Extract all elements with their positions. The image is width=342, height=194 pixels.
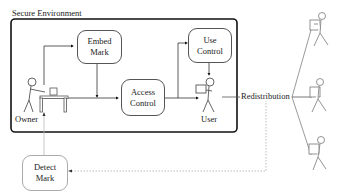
user-figure-icon	[196, 78, 214, 112]
secure-environment-title: Secure Environment	[12, 8, 82, 18]
recipient-figure-icon	[310, 13, 328, 47]
redistribution-label: Redistribution	[241, 91, 290, 101]
access-control-node: Access Control	[121, 79, 165, 116]
embed-mark-node: Embed Mark	[77, 30, 122, 64]
edge-to-recipient-3	[292, 97, 311, 155]
edge-user-to-usecontrol	[178, 43, 187, 98]
edge-to-recipient-1	[292, 30, 311, 97]
user-label: User	[201, 114, 217, 124]
use-control-node: Use Control	[188, 28, 232, 63]
recipient-figure-icon	[309, 137, 326, 171]
detect-mark-node: Detect Mark	[22, 155, 68, 191]
edge-owner-to-embed	[44, 46, 73, 85]
recipient-figure-icon	[310, 79, 326, 113]
owner-label: Owner	[15, 114, 38, 124]
